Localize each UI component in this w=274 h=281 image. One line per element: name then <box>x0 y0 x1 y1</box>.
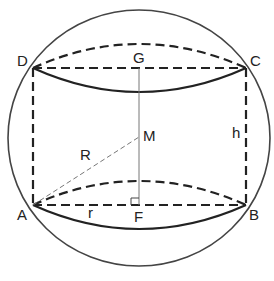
label-h: h <box>232 124 240 141</box>
label-D: D <box>17 52 28 69</box>
cylinder-in-sphere-diagram: D G C M A F B R r h <box>0 0 274 281</box>
label-F: F <box>134 208 143 225</box>
label-R: R <box>80 146 91 163</box>
label-r: r <box>88 204 93 221</box>
label-C: C <box>250 52 261 69</box>
label-G: G <box>133 49 145 66</box>
label-B: B <box>249 206 259 223</box>
label-A: A <box>17 206 27 223</box>
label-M: M <box>143 127 156 144</box>
